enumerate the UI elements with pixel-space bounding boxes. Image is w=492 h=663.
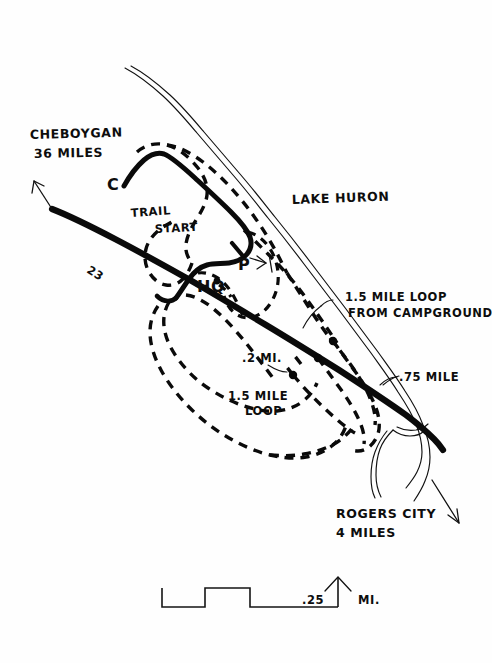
label-headquarters: HQ: [197, 277, 225, 296]
label-scale-unit: MI.: [358, 593, 380, 607]
label-highway-number: 23: [84, 263, 106, 284]
label-trail-start-line2: START: [154, 220, 198, 236]
junction-marker: [289, 371, 297, 379]
label-trail-start-line1: TRAIL: [130, 203, 171, 220]
label-loop-from-campground-line2: FROM CAMPGROUND: [348, 306, 492, 320]
scale-bar: .25 MI.: [162, 577, 380, 607]
junction-marker: [329, 337, 337, 345]
trail-loop-west-southeast: [270, 424, 355, 456]
leader-point-two-mile: [268, 365, 287, 372]
label-loop-from-campground-line1: 1.5 MILE LOOP: [345, 290, 447, 304]
label-spur-point-two-mile: .2 MI.: [242, 351, 282, 365]
label-parking: P: [238, 255, 250, 274]
label-campground-c: C: [107, 175, 119, 194]
label-rogers-distance: 4 MILES: [336, 525, 396, 540]
junction-marker: [314, 354, 322, 362]
map-drawing: CHEBOYGAN 36 MILES LAKE HURON C HQ P 23 …: [0, 0, 492, 663]
label-rogers-city: ROGERS CITY: [336, 506, 436, 521]
label-scale-value: .25: [302, 593, 324, 607]
label-cheboygan-city: CHEBOYGAN: [30, 125, 123, 142]
label-loop-west-line1: 1.5 MILE: [228, 389, 288, 403]
trail-loop-west-outer: [150, 306, 347, 458]
trail-loop-west-south: [293, 375, 355, 433]
label-loop-west-line2: LOOP: [245, 404, 282, 418]
trail-loop-point-seventyfive: [333, 341, 379, 451]
trail-map-canvas: CHEBOYGAN 36 MILES LAKE HURON C HQ P 23 …: [0, 0, 492, 663]
label-loop-point-seventyfive: .75 MILE: [399, 370, 459, 384]
label-cheboygan-distance: 36 MILES: [34, 145, 103, 161]
label-lake-huron: LAKE HURON: [292, 189, 390, 207]
leader-loop-from-campground: [321, 300, 333, 306]
